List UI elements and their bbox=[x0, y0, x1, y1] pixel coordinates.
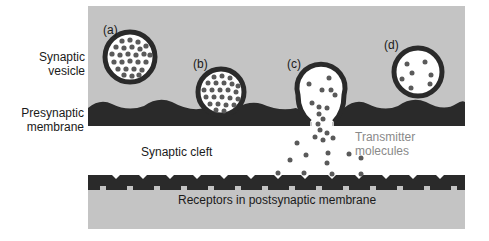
synaptic-vesicle-label: Synaptic vesicle bbox=[18, 50, 85, 78]
vesicle-b-label: (b) bbox=[193, 57, 208, 71]
vesicle-b bbox=[198, 69, 244, 115]
receptors-label: Receptors in postsynaptic membrane bbox=[178, 193, 376, 207]
vesicle-a-label: (a) bbox=[103, 23, 118, 37]
synaptic-cleft-label: Synaptic cleft bbox=[141, 145, 212, 159]
presynaptic-membrane-label: Presynaptic membrane bbox=[0, 106, 84, 134]
vesicle-c bbox=[297, 64, 345, 128]
postsynaptic-membrane bbox=[88, 175, 465, 190]
transmitter-molecules-label: Transmitter molecules bbox=[355, 130, 415, 158]
vesicle-d bbox=[394, 48, 442, 96]
vesicle-c-label: (c) bbox=[287, 57, 301, 71]
vesicle-d-label: (d) bbox=[384, 38, 399, 52]
vesicle-a bbox=[105, 32, 155, 82]
